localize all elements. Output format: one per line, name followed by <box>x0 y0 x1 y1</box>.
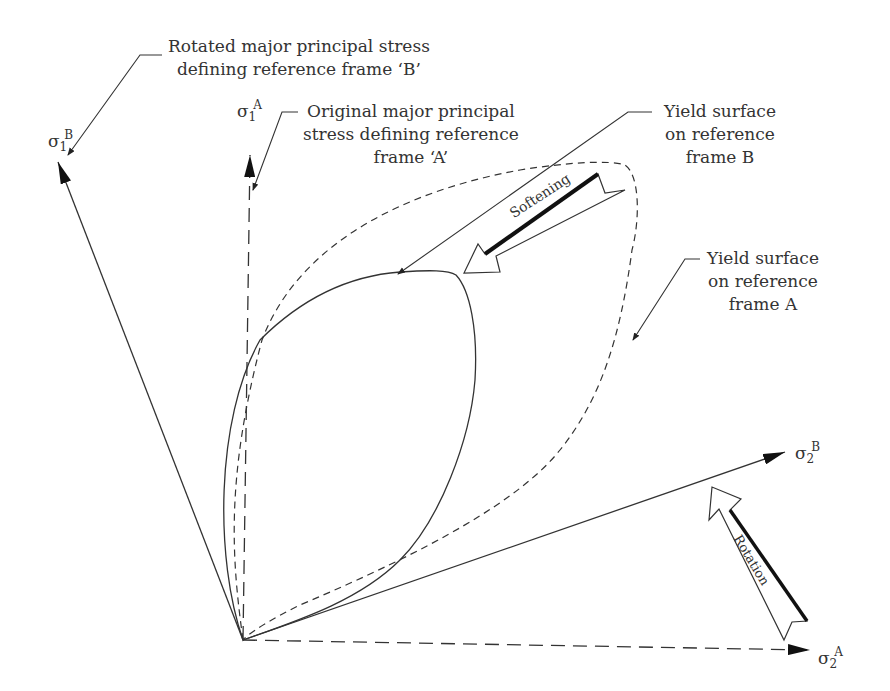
callout-original-major-line1: Original major principal <box>303 100 519 123</box>
label-sigma1-B: σ1B <box>48 128 73 154</box>
callout-original-major: Original major principal stress defining… <box>303 100 519 169</box>
yield-surface-B <box>224 271 476 640</box>
axis-sigma2-B <box>243 452 785 640</box>
axis-sigma1-B <box>58 162 243 640</box>
callout-yield-B: Yield surface on reference frame B <box>664 100 776 169</box>
sigma-symbol: σ <box>795 443 807 463</box>
sigma-sup: A <box>834 645 843 659</box>
callout-yield-A: Yield surface on reference frame A <box>707 247 819 316</box>
sigma-sup: B <box>811 440 820 454</box>
sigma-sup: A <box>253 98 262 112</box>
callout-yield-A-line2: on reference <box>707 270 819 293</box>
callout-yield-B-line1: Yield surface <box>664 100 776 123</box>
sigma-sub: 2 <box>807 452 815 466</box>
sigma-sub: 1 <box>60 140 68 154</box>
sigma-sub: 2 <box>830 657 838 671</box>
callout-rotated-major-line1: Rotated major principal stress <box>168 35 430 58</box>
callout-yield-B-line3: frame B <box>664 146 776 169</box>
callout-yield-B-line2: on reference <box>664 123 776 146</box>
label-sigma2-A: σ2A <box>818 645 843 671</box>
callout-yield-A-line3: frame A <box>707 293 819 316</box>
axis-sigma2-A <box>243 640 810 650</box>
callout-original-major-line3: frame ‘A’ <box>303 146 519 169</box>
sigma-sup: B <box>64 128 73 142</box>
callout-original-major-line2: stress defining reference <box>303 123 519 146</box>
callout-rotated-major: Rotated major principal stress defining … <box>168 35 430 81</box>
callout-yield-A-line1: Yield surface <box>707 247 819 270</box>
leader-yield-A <box>633 259 700 340</box>
sigma-sub: 1 <box>249 110 257 124</box>
callout-rotated-major-line2: defining reference frame ‘B’ <box>168 58 430 81</box>
sigma-symbol: σ <box>48 131 60 151</box>
leader-rotated-major <box>68 55 162 155</box>
yield-surface-A <box>234 162 637 640</box>
label-sigma1-A: σ1A <box>237 98 262 124</box>
sigma-symbol: σ <box>237 101 249 121</box>
label-sigma2-B: σ2B <box>795 440 820 466</box>
sigma-symbol: σ <box>818 648 830 668</box>
